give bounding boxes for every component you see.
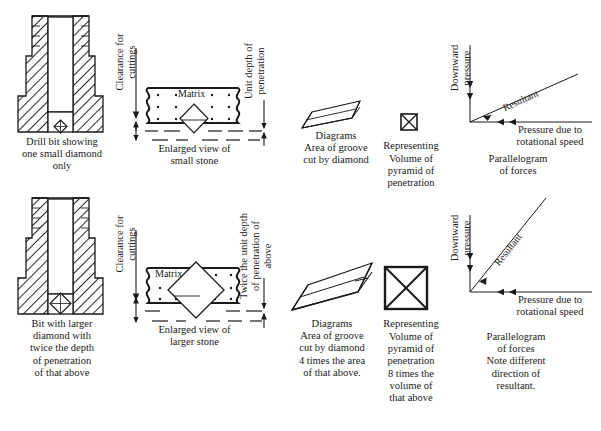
forces-caption-bottom: Parallelogram of forces Note different d… xyxy=(466,331,566,392)
clearance-label-bottom: Clearance for cuttings xyxy=(114,194,138,294)
drill-bit-large-caption: Bit with larger diamond with twice the d… xyxy=(2,318,122,379)
pyramid-small-caption: Volume of pyramid of penetration xyxy=(372,153,450,190)
unit-depth-label-top: Unit depth of penetration xyxy=(243,16,267,126)
rotational-pressure-label-bottom: Pressure due to rotational speed xyxy=(498,294,601,318)
force-parallelogram-bottom-diagram xyxy=(467,198,592,295)
rotational-pressure-label-top: Pressure due to rotational speed xyxy=(498,124,601,148)
downward-pressure-label-top: Downward pressure xyxy=(449,24,473,112)
matrix-small-caption: Enlarged view of small stone xyxy=(132,143,257,167)
representing-label-bottom: Representing xyxy=(374,318,448,330)
clearance-label-top: Clearance for cuttings xyxy=(114,12,138,112)
representing-label-top: Representing xyxy=(374,140,448,152)
pyramid-symbol-small-icon xyxy=(401,114,417,130)
pyramid-large-caption: Volume of pyramid of penetration 8 times… xyxy=(372,331,450,404)
drill-bit-small-caption: Drill bit showing one small diamond only xyxy=(2,136,122,173)
drill-bit-small-diagram xyxy=(18,16,103,133)
forces-caption-top: Parallelogram of forces xyxy=(468,153,568,177)
pyramid-symbol-large-icon xyxy=(385,267,427,309)
matrix-large-caption: Enlarged view of larger stone xyxy=(132,324,257,348)
downward-pressure-label-bottom: Downward pressure xyxy=(449,194,473,282)
groove-large-caption: Diagrams Area of groove cut by diamond 4… xyxy=(280,318,384,379)
matrix-label-top: Matrix xyxy=(178,88,205,99)
unit-depth-label-bottom: Twice the unit depth of penetration of a… xyxy=(238,194,275,318)
groove-small-caption: Diagrams Area of groove cut by diamond xyxy=(286,130,386,167)
force-parallelogram-top-diagram xyxy=(467,45,592,125)
groove-prism-small-diagram xyxy=(302,101,360,128)
matrix-label-bottom: Matrix xyxy=(155,268,182,279)
rock-surface-dashes xyxy=(145,131,262,140)
drill-bit-large-diagram xyxy=(18,198,103,314)
groove-prism-large-diagram xyxy=(292,263,372,310)
